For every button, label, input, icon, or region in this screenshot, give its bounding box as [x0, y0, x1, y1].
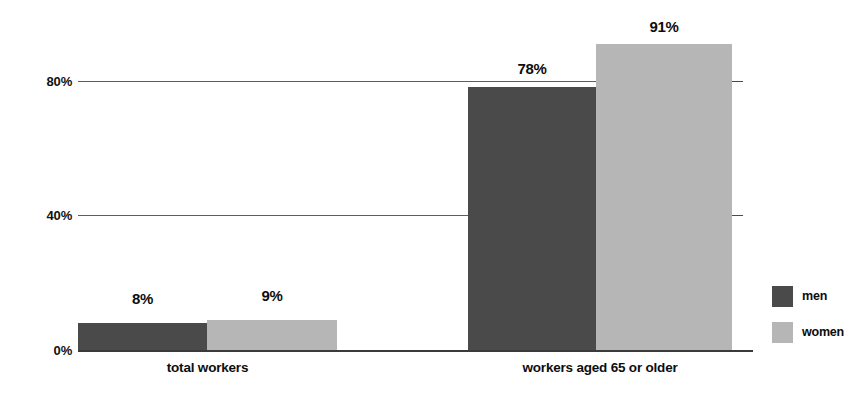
legend-label-women: women: [802, 325, 844, 339]
bar-men-total-workers[interactable]: [78, 323, 207, 350]
plot-area: 80% 40% 0% 8% 9% total workers 78% 91% w…: [0, 0, 866, 404]
axis-baseline: [78, 350, 753, 352]
tick-stub-80: [732, 81, 743, 82]
value-label-women-total-workers: 9%: [207, 287, 337, 304]
tick-stub-40: [732, 215, 743, 216]
value-label-women-workers-aged-65-or-older: 91%: [596, 18, 732, 35]
legend-swatch-women-icon: [772, 322, 793, 343]
y-tick-label-80: 80%: [47, 74, 72, 89]
value-label-men-total-workers: 8%: [78, 290, 207, 307]
category-label-workers-aged-65-or-older: workers aged 65 or older: [468, 360, 732, 375]
bar-chart: 80% 40% 0% 8% 9% total workers 78% 91% w…: [0, 0, 866, 404]
legend: men women: [772, 278, 844, 350]
legend-label-men: men: [802, 289, 827, 303]
value-label-men-workers-aged-65-or-older: 78%: [468, 60, 596, 77]
category-label-total-workers: total workers: [78, 360, 337, 375]
legend-item-men[interactable]: men: [772, 278, 844, 314]
bar-women-workers-aged-65-or-older[interactable]: [596, 44, 732, 350]
legend-swatch-men-icon: [772, 286, 793, 307]
bar-women-total-workers[interactable]: [207, 320, 337, 350]
y-tick-label-40: 40%: [47, 208, 72, 223]
bar-men-workers-aged-65-or-older[interactable]: [468, 87, 596, 350]
y-tick-label-0: 0%: [54, 343, 72, 358]
legend-item-women[interactable]: women: [772, 314, 844, 350]
